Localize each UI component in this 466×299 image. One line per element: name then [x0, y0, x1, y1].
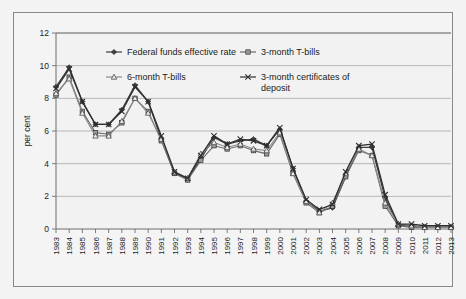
xtick-label-1985: 1985	[78, 236, 87, 254]
xtick-label-1998: 1998	[250, 236, 259, 254]
chart-plot-wrapper: 024681012per cent19831984198519861987198…	[0, 0, 466, 299]
legend-label-3-line2: deposit	[261, 83, 291, 93]
xtick-label-2012: 2012	[434, 236, 443, 254]
ytick-label-4: 4	[44, 159, 49, 169]
marker-square	[246, 50, 250, 54]
figure-canvas: 024681012per cent19831984198519861987198…	[0, 0, 466, 299]
legend-label-2: 6-month T-bills	[127, 72, 186, 82]
xtick-label-1987: 1987	[105, 236, 114, 254]
xtick-label-1994: 1994	[197, 236, 206, 254]
xtick-label-2008: 2008	[381, 236, 390, 254]
xtick-label-1988: 1988	[118, 236, 127, 254]
legend-label-1: 3-month T-bills	[261, 47, 320, 57]
xtick-label-1986: 1986	[92, 236, 101, 254]
xtick-label-1999: 1999	[263, 236, 272, 254]
xtick-label-2002: 2002	[302, 236, 311, 254]
xtick-label-2005: 2005	[342, 236, 351, 254]
xtick-label-1983: 1983	[52, 236, 61, 254]
xtick-label-1991: 1991	[157, 236, 166, 254]
xtick-label-1996: 1996	[223, 236, 232, 254]
ytick-label-8: 8	[44, 93, 49, 103]
xtick-label-1984: 1984	[65, 236, 74, 254]
xtick-label-1990: 1990	[144, 236, 153, 254]
xtick-label-1993: 1993	[184, 236, 193, 254]
xtick-label-2007: 2007	[368, 236, 377, 254]
xtick-label-2013: 2013	[447, 236, 456, 254]
xtick-label-2010: 2010	[408, 236, 417, 254]
xtick-label-2004: 2004	[329, 236, 338, 254]
line-chart: 024681012per cent19831984198519861987198…	[0, 0, 466, 299]
xtick-label-2003: 2003	[315, 236, 324, 254]
xtick-label-2011: 2011	[421, 236, 430, 254]
ytick-label-12: 12	[40, 28, 50, 38]
xtick-label-2001: 2001	[289, 236, 298, 254]
legend-label-0: Federal funds effective rate	[127, 47, 236, 57]
xtick-label-2000: 2000	[276, 236, 285, 254]
y-axis-title: per cent	[22, 115, 32, 146]
ytick-label-2: 2	[44, 191, 49, 201]
xtick-label-1995: 1995	[210, 236, 219, 254]
xtick-label-1992: 1992	[171, 236, 180, 254]
legend-label-3: 3-month certificates of	[261, 72, 350, 82]
ytick-label-6: 6	[44, 126, 49, 136]
xtick-label-1989: 1989	[131, 236, 140, 254]
ytick-label-0: 0	[44, 224, 49, 234]
ytick-label-10: 10	[40, 61, 50, 71]
xtick-label-1997: 1997	[236, 236, 245, 254]
xtick-label-2009: 2009	[394, 236, 403, 254]
xtick-label-2006: 2006	[355, 236, 364, 254]
